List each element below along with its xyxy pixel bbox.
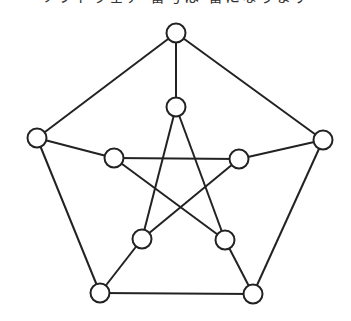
edge-inner-left-inner-bottom-right <box>114 158 225 240</box>
edge-outer-top-outer-right <box>176 33 323 140</box>
edge-outer-bottom-right-outer-bottom-left <box>100 293 253 294</box>
node-outer-right <box>314 131 333 150</box>
edge-inner-top-inner-bottom-right <box>176 107 225 240</box>
node-inner-bottom-left <box>133 230 152 249</box>
edge-outer-left-inner-left <box>37 138 114 158</box>
node-outer-bottom-right <box>244 285 263 304</box>
graph-nodes <box>28 24 333 304</box>
node-outer-top <box>167 24 186 43</box>
edge-outer-right-inner-right <box>239 140 323 159</box>
edge-outer-bottom-left-outer-left <box>37 138 100 293</box>
edge-inner-top-inner-bottom-left <box>142 107 176 239</box>
edge-inner-right-inner-bottom-left <box>142 159 239 239</box>
node-inner-top <box>167 98 186 117</box>
node-inner-right <box>230 150 249 169</box>
edge-outer-left-outer-top <box>37 33 176 138</box>
node-inner-left <box>105 149 124 168</box>
edge-inner-left-inner-right <box>114 158 239 159</box>
petersen-graph-diagram <box>0 0 351 321</box>
edge-outer-right-outer-bottom-right <box>253 140 323 294</box>
node-outer-left <box>28 129 47 148</box>
node-outer-bottom-left <box>91 284 110 303</box>
graph-edges <box>37 33 323 294</box>
node-inner-bottom-right <box>216 231 235 250</box>
